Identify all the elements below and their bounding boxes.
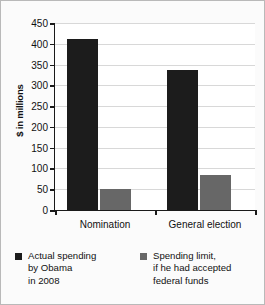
legend-label-line: by Obama [28,262,96,274]
x-axis-tick-mark [155,210,157,215]
y-axis-tick-label: 50 [37,184,48,195]
x-axis-category-label: General election [169,219,242,230]
y-axis-tick-label: 450 [31,18,48,29]
y-axis-tick-label: 400 [31,38,48,49]
legend-label-line: Spending limit, [153,250,231,262]
bar-series-group [55,23,255,210]
y-axis-tick-label: 300 [31,80,48,91]
bar-0-0 [67,39,98,210]
legend-label-line: Actual spending [28,250,96,262]
chart-area: $ in millions 45040035030025020015010050… [1,1,265,241]
legend-swatch-gray-icon [140,253,147,260]
y-axis-tick-label: 100 [31,163,48,174]
legend-label-1: Spending limit,if he had acceptedfederal… [153,250,231,287]
bar-chart-figure: $ in millions 45040035030025020015010050… [0,0,265,305]
x-axis-tick-mark [255,210,257,215]
legend-entry-0[interactable]: Actual spendingby Obamain 2008 [15,250,130,287]
x-axis-category-label: Nomination [80,219,131,230]
y-axis-tick-label: 350 [31,59,48,70]
legend-label-line: if he had accepted [153,262,231,274]
y-axis-tick-label: 0 [42,205,48,216]
chart-legend: Actual spendingby Obamain 2008Spending l… [15,250,255,287]
y-axis-tick-label: 150 [31,142,48,153]
legend-swatch-dark-icon [15,253,22,260]
legend-label-line: federal funds [153,275,231,287]
x-axis-tick-mark [55,210,57,215]
legend-label-0: Actual spendingby Obamain 2008 [28,250,96,287]
y-axis-tick-label: 250 [31,101,48,112]
legend-label-line: in 2008 [28,275,96,287]
plot-area: 450400350300250200150100500 NominationGe… [54,23,255,211]
bar-0-1 [167,70,198,210]
legend-entry-1[interactable]: Spending limit,if he had acceptedfederal… [140,250,255,287]
bar-1-0 [100,189,131,210]
bar-1-1 [200,175,231,210]
y-axis-tick-label: 200 [31,121,48,132]
y-axis-title: $ in millions [14,51,25,171]
